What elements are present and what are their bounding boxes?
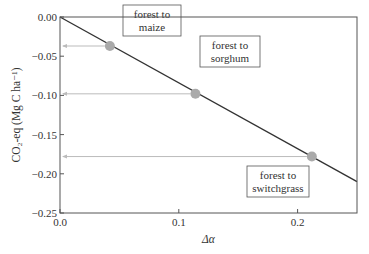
x-axis-ticks: 0.00.10.2: [53, 209, 304, 228]
y-tick-label: −0.15: [32, 129, 58, 141]
y-axis-ticks: 0.00−0.05−0.10−0.15−0.20−0.25: [32, 11, 64, 219]
y-axis-title: CO₂-eq (Mg C ha⁻¹): [10, 67, 23, 162]
x-axis-title: Δα: [201, 233, 216, 245]
y-tick-label: −0.25: [32, 207, 58, 219]
data-point: [190, 89, 200, 99]
x-tick-label: 0.1: [172, 216, 186, 228]
y-tick-label: 0.00: [38, 11, 58, 23]
annotation-label: sorghum: [211, 52, 250, 64]
annotation-label: forest to: [260, 169, 297, 181]
point-annotations: forest tomaizeforest tosorghumforest tos…: [123, 5, 309, 197]
annotation-label: switchgrass: [252, 182, 303, 194]
data-point: [307, 152, 317, 162]
annotation-label: forest to: [212, 39, 249, 51]
x-tick-label: 0.2: [291, 216, 305, 228]
y-tick-label: −0.10: [32, 89, 58, 101]
data-point: [105, 41, 115, 51]
y-tick-label: −0.20: [32, 168, 58, 180]
annotation-label: maize: [139, 21, 165, 33]
chart: forest tomaizeforest tosorghumforest tos…: [0, 0, 369, 254]
arrow-head-icon: [62, 155, 67, 159]
arrow-head-icon: [62, 44, 67, 48]
y-tick-label: −0.05: [32, 50, 58, 62]
annotation-label: forest to: [134, 8, 171, 20]
arrow-lines: [62, 44, 307, 159]
